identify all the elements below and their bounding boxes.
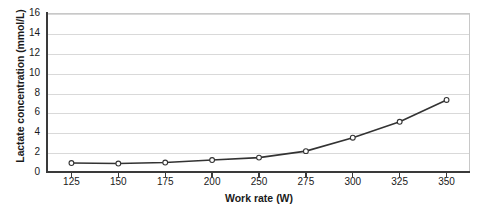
line-series-path xyxy=(71,100,446,164)
x-tick-label: 350 xyxy=(427,176,467,187)
data-point-markers xyxy=(69,98,449,166)
data-point-marker xyxy=(116,161,121,166)
x-tick-label: 150 xyxy=(98,176,138,187)
x-tick-mark xyxy=(305,173,306,177)
x-tick-mark xyxy=(165,173,166,177)
x-tick-mark xyxy=(258,173,259,177)
data-point-marker xyxy=(303,149,308,154)
data-point-marker xyxy=(69,161,74,166)
x-tick-mark xyxy=(446,173,447,177)
data-point-marker xyxy=(350,135,355,140)
data-point-marker xyxy=(210,158,215,163)
data-series-layer xyxy=(48,13,470,172)
x-tick-label: 325 xyxy=(380,176,420,187)
y-axis-title: Lactate concentration (mmol/L) xyxy=(14,3,26,169)
x-tick-label: 250 xyxy=(239,176,279,187)
x-tick-label: 125 xyxy=(51,176,91,187)
x-tick-label: 175 xyxy=(145,176,185,187)
y-axis-line xyxy=(46,12,48,173)
x-tick-mark xyxy=(71,173,72,177)
x-tick-mark xyxy=(211,173,212,177)
x-axis-line xyxy=(46,171,470,173)
x-tick-label: 200 xyxy=(192,176,232,187)
x-tick-label: 300 xyxy=(333,176,373,187)
x-axis-title: Work rate (W) xyxy=(48,192,470,204)
data-point-marker xyxy=(257,155,262,160)
lactate-work-rate-chart: Lactate concentration (mmol/L) 024681012… xyxy=(0,0,483,211)
x-tick-label: 275 xyxy=(286,176,326,187)
x-tick-mark xyxy=(118,173,119,177)
data-point-marker xyxy=(163,160,168,165)
x-tick-mark xyxy=(352,173,353,177)
data-point-marker xyxy=(397,119,402,124)
x-tick-mark xyxy=(399,173,400,177)
data-point-marker xyxy=(444,98,449,103)
